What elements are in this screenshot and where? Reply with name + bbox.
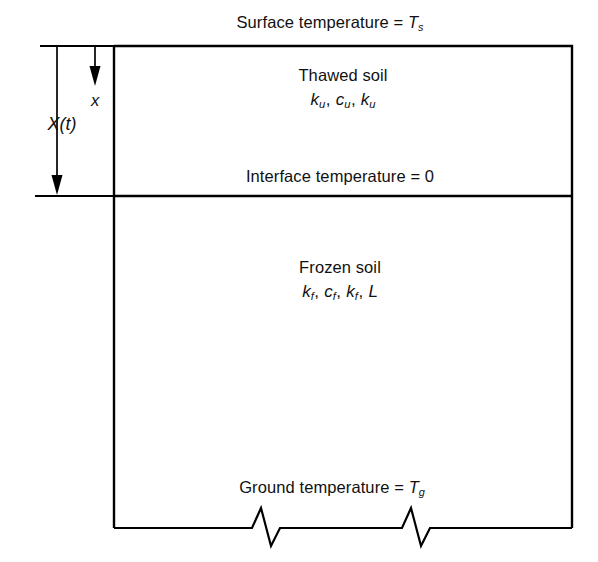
thawed-soil-name-text: Thawed soil bbox=[298, 66, 387, 84]
ground-temperature-text: Ground temperature = bbox=[239, 478, 409, 496]
thawed-prop-sep-1: , bbox=[325, 90, 335, 109]
coordinate-arrow-head bbox=[90, 66, 101, 86]
thawed-prop-2-symbol: c bbox=[336, 90, 345, 109]
ground-temperature-subscript: g bbox=[419, 486, 425, 498]
frozen-soil-name-text: Frozen soil bbox=[299, 258, 381, 276]
thaw-depth-label: X(t) bbox=[48, 114, 77, 135]
surface-temperature-label: Surface temperature = Ts bbox=[236, 13, 423, 34]
frozen-prop-3-symbol: k bbox=[346, 282, 355, 301]
thawed-prop-1-symbol: k bbox=[310, 90, 319, 109]
frozen-prop-2-symbol: c bbox=[324, 282, 333, 301]
interface-temperature-label: Interface temperature = 0 bbox=[246, 167, 434, 186]
frozen-prop-1-symbol: k bbox=[302, 282, 311, 301]
thawed-prop-1-subscript: u bbox=[319, 98, 325, 110]
interface-temperature-text: Interface temperature = 0 bbox=[246, 167, 434, 185]
frozen-prop-4-symbol: L bbox=[368, 282, 377, 301]
surface-temperature-text: Surface temperature = bbox=[236, 13, 407, 31]
ground-temperature-label: Ground temperature = Tg bbox=[239, 478, 425, 499]
ground-temperature-symbol: T bbox=[409, 478, 419, 496]
thawed-prop-3-subscript: u bbox=[369, 98, 375, 110]
thawed-prop-sep-2: , bbox=[350, 90, 360, 109]
frozen-prop-sep-1: , bbox=[314, 282, 324, 301]
frozen-soil-region-name: Frozen soil bbox=[299, 258, 381, 277]
frozen-prop-sep-2: , bbox=[336, 282, 346, 301]
surface-temperature-subscript: s bbox=[418, 21, 423, 33]
coordinate-axis-text: x bbox=[91, 91, 99, 109]
surface-temperature-symbol: T bbox=[408, 13, 418, 31]
thawed-soil-properties: ku, cu, ku bbox=[310, 90, 375, 111]
soil-thermal-diagram: Surface temperature = Ts Thawed soil ku,… bbox=[0, 0, 598, 562]
frozen-soil-properties: kf, cf, kf, L bbox=[302, 282, 378, 303]
thaw-depth-text: X(t) bbox=[48, 114, 77, 134]
bottom-edge-with-break-symbols bbox=[114, 508, 572, 546]
coordinate-axis-label: x bbox=[91, 91, 99, 110]
thawed-soil-region-name: Thawed soil bbox=[298, 66, 387, 85]
thawed-prop-3-symbol: k bbox=[361, 90, 370, 109]
frozen-prop-sep-3: , bbox=[358, 282, 368, 301]
thaw-depth-arrow-head bbox=[52, 175, 63, 195]
